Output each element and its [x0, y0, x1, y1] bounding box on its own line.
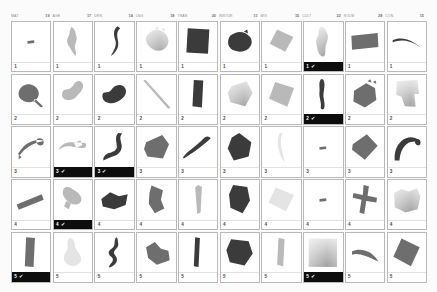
selected-rank-badge[interactable]: 3✔ [95, 167, 133, 177]
rank-badge[interactable]: 2✔ [95, 114, 133, 124]
rank-badge[interactable]: 4✔ [221, 220, 259, 230]
rank-badge[interactable]: 3✔ [12, 167, 50, 177]
thumbnail-cell[interactable]: 5✔ [94, 232, 134, 283]
rank-badge[interactable]: 2✔ [54, 114, 92, 124]
rank-badge[interactable]: 4✔ [262, 220, 300, 230]
rank-badge[interactable]: 2✔ [221, 114, 259, 124]
selected-rank-badge[interactable]: 2✔ [304, 114, 342, 124]
column-header[interactable]: CULT22 [302, 12, 344, 20]
rank-badge[interactable]: 1✔ [262, 62, 300, 72]
thumbnail-cell[interactable]: 5✔ [136, 232, 176, 283]
selected-rank-badge[interactable]: 5✔ [304, 272, 342, 282]
rank-badge[interactable]: 3✔ [262, 167, 300, 177]
thumbnail-cell[interactable]: 5✔ [11, 232, 51, 283]
rank-badge[interactable]: 1✔ [179, 62, 217, 72]
thumbnail-cell[interactable]: 4✔ [387, 179, 427, 230]
column-header[interactable]: ROLM28 [344, 12, 386, 20]
thumbnail-cell[interactable]: 2✔ [53, 74, 93, 125]
rank-badge[interactable]: 1✔ [388, 62, 426, 72]
thumbnail-cell[interactable]: 3✔ [136, 126, 176, 177]
rank-badge[interactable]: 2✔ [179, 114, 217, 124]
column-header[interactable]: DRN14 [94, 12, 136, 20]
selected-rank-badge[interactable]: 3✔ [54, 167, 92, 177]
thumbnail-cell[interactable]: 2✔ [261, 74, 301, 125]
rank-badge[interactable]: 3✔ [221, 167, 259, 177]
thumbnail-cell[interactable]: 3✔ [53, 126, 93, 177]
thumbnail-cell[interactable]: 4✔ [53, 179, 93, 230]
thumbnail-cell[interactable]: 3✔ [303, 126, 343, 177]
thumbnail-cell[interactable]: 2✔ [136, 74, 176, 125]
thumbnail-cell[interactable]: 1✔ [303, 21, 343, 72]
thumbnail-cell[interactable]: 4✔ [136, 179, 176, 230]
thumbnail-cell[interactable]: 3✔ [261, 126, 301, 177]
thumbnail-cell[interactable]: 3✔ [345, 126, 385, 177]
thumbnail-cell[interactable]: 2✔ [303, 74, 343, 125]
rank-badge[interactable]: 5✔ [221, 272, 259, 282]
thumbnail-cell[interactable]: 4✔ [303, 179, 343, 230]
thumbnail-cell[interactable]: 4✔ [220, 179, 260, 230]
rank-badge[interactable]: 5✔ [95, 272, 133, 282]
rank-badge[interactable]: 4✔ [12, 220, 50, 230]
rank-badge[interactable]: 1✔ [95, 62, 133, 72]
thumbnail-cell[interactable]: 1✔ [220, 21, 260, 72]
rank-badge[interactable]: 3✔ [179, 167, 217, 177]
column-header[interactable]: AGE17 [53, 12, 95, 20]
rank-badge[interactable]: 5✔ [346, 272, 384, 282]
rank-badge[interactable]: 5✔ [137, 272, 175, 282]
thumbnail-cell[interactable]: 3✔ [387, 126, 427, 177]
rank-badge[interactable]: 3✔ [137, 167, 175, 177]
column-header[interactable]: MAT19 [11, 12, 53, 20]
thumbnail-cell[interactable]: 2✔ [178, 74, 218, 125]
rank-badge[interactable]: 1✔ [137, 62, 175, 72]
rank-badge[interactable]: 4✔ [346, 220, 384, 230]
thumbnail-cell[interactable]: 3✔ [220, 126, 260, 177]
rank-badge[interactable]: 3✔ [304, 167, 342, 177]
thumbnail-cell[interactable]: 1✔ [178, 21, 218, 72]
thumbnail-cell[interactable]: 5✔ [345, 232, 385, 283]
rank-badge[interactable]: 3✔ [346, 167, 384, 177]
rank-badge[interactable]: 5✔ [262, 272, 300, 282]
column-header[interactable]: INSTUR11 [219, 12, 261, 20]
column-header[interactable]: CON15 [385, 12, 427, 20]
rank-badge[interactable]: 2✔ [388, 114, 426, 124]
selected-rank-badge[interactable]: 5✔ [12, 272, 50, 282]
column-header[interactable]: MIX15 [261, 12, 303, 20]
rank-badge[interactable]: 4✔ [137, 220, 175, 230]
thumbnail-cell[interactable]: 3✔ [11, 126, 51, 177]
rank-badge[interactable]: 2✔ [12, 114, 50, 124]
thumbnail-cell[interactable]: 1✔ [11, 21, 51, 72]
thumbnail-cell[interactable]: 1✔ [53, 21, 93, 72]
thumbnail-cell[interactable]: 4✔ [345, 179, 385, 230]
thumbnail-cell[interactable]: 3✔ [94, 126, 134, 177]
selected-rank-badge[interactable]: 4✔ [54, 220, 92, 230]
thumbnail-cell[interactable]: 5✔ [220, 232, 260, 283]
thumbnail-cell[interactable]: 1✔ [345, 21, 385, 72]
thumbnail-cell[interactable]: 2✔ [387, 74, 427, 125]
thumbnail-cell[interactable]: 5✔ [387, 232, 427, 283]
thumbnail-cell[interactable]: 5✔ [53, 232, 93, 283]
rank-badge[interactable]: 4✔ [95, 220, 133, 230]
selected-rank-badge[interactable]: 1✔ [304, 62, 342, 72]
thumbnail-cell[interactable]: 1✔ [387, 21, 427, 72]
thumbnail-cell[interactable]: 4✔ [261, 179, 301, 230]
rank-badge[interactable]: 5✔ [54, 272, 92, 282]
column-header[interactable]: TRAN20 [177, 12, 219, 20]
rank-badge[interactable]: 1✔ [221, 62, 259, 72]
rank-badge[interactable]: 1✔ [54, 62, 92, 72]
thumbnail-cell[interactable]: 5✔ [178, 232, 218, 283]
rank-badge[interactable]: 3✔ [388, 167, 426, 177]
rank-badge[interactable]: 4✔ [388, 220, 426, 230]
thumbnail-cell[interactable]: 2✔ [345, 74, 385, 125]
rank-badge[interactable]: 2✔ [262, 114, 300, 124]
rank-badge[interactable]: 5✔ [388, 272, 426, 282]
rank-badge[interactable]: 5✔ [179, 272, 217, 282]
thumbnail-cell[interactable]: 5✔ [261, 232, 301, 283]
rank-badge[interactable]: 4✔ [304, 220, 342, 230]
thumbnail-cell[interactable]: 1✔ [94, 21, 134, 72]
thumbnail-cell[interactable]: 2✔ [94, 74, 134, 125]
thumbnail-cell[interactable]: 1✔ [136, 21, 176, 72]
thumbnail-cell[interactable]: 4✔ [178, 179, 218, 230]
rank-badge[interactable]: 2✔ [346, 114, 384, 124]
column-header[interactable]: LNG18 [136, 12, 178, 20]
thumbnail-cell[interactable]: 5✔ [303, 232, 343, 283]
